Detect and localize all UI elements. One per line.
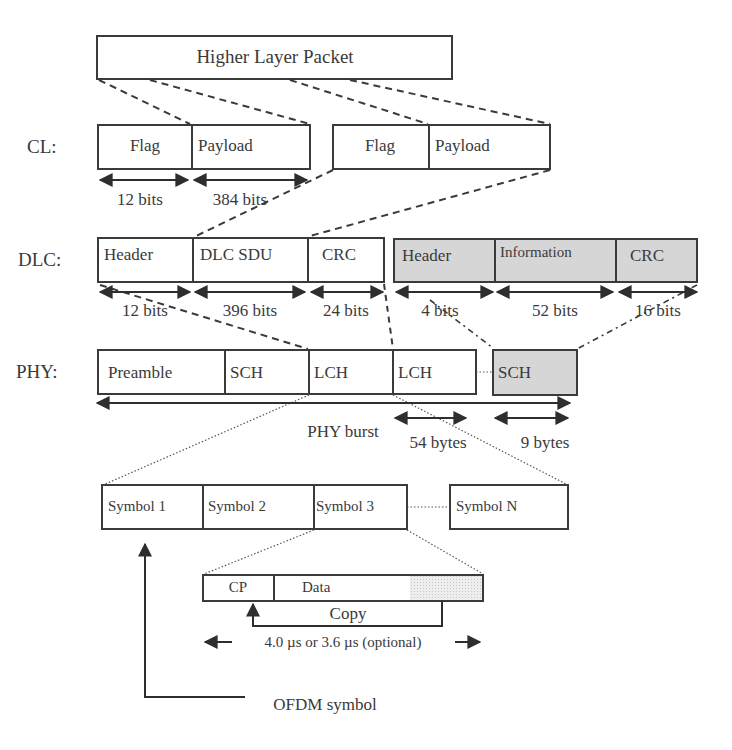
cl-flag-size: 12 bits [117,191,163,208]
symbol-2: Symbol 2 [208,499,266,514]
ofdm-duration: 4.0 µs or 3.6 µs (optional) [265,635,422,650]
phy-sch-shaded-label: SCH [498,364,531,381]
symbol-n: Symbol N [456,499,517,514]
ofdm-copy: Copy [330,605,367,622]
phy-burst-label: PHY burst [307,423,379,440]
layer-label-phy: PHY: [16,362,58,381]
dlc-data-header-size: 12 bits [122,302,168,319]
dlc-control-header-size: 4 bits [421,302,458,319]
phy-lch-2: LCH [398,364,432,381]
cl-flag-2: Flag [365,137,395,154]
symbol-1: Symbol 1 [108,499,166,514]
ofdm-cp: CP [229,580,247,595]
ofdm-data: Data [302,580,330,595]
dlc-data-sdu-size: 396 bits [223,302,277,319]
dlc-data-sdu: DLC SDU [200,246,272,263]
cl-payload-2: Payload [435,137,490,154]
cl-payload-1: Payload [198,137,253,154]
phy-sch-size: 9 bytes [521,434,570,451]
dlc-data-crc-size: 24 bits [323,302,369,319]
cl-payload-size: 384 bits [213,191,267,208]
cl-flag-1: Flag [130,137,160,154]
dlc-control-crc: CRC [630,247,664,264]
dlc-control-header: Header [402,247,451,264]
dlc-data-crc: CRC [322,246,356,263]
phy-sch: SCH [230,364,263,381]
ofdm-symbol-label: OFDM symbol [273,696,376,713]
layer-label-cl: CL: [27,137,57,156]
layer-label-dlc: DLC: [18,250,61,269]
symbol-3: Symbol 3 [316,499,374,514]
dlc-control-information-size: 52 bits [532,302,578,319]
dlc-control-information: Information [500,245,572,260]
higher-layer-packet-label: Higher Layer Packet [196,47,353,66]
phy-lch-1: LCH [314,364,348,381]
phy-preamble: Preamble [108,364,172,381]
dlc-data-header: Header [104,246,153,263]
phy-lch-size: 54 bytes [409,434,466,451]
dlc-control-crc-size: 16 bits [635,302,681,319]
